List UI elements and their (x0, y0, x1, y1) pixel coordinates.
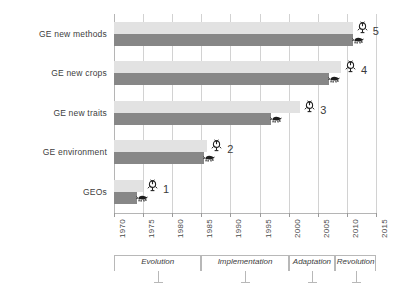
x-tick-label: 1970 (118, 219, 127, 238)
category-label: GE new methods (39, 29, 107, 39)
tick-mark (201, 213, 202, 217)
bar-group (114, 61, 376, 85)
animal-icon (270, 112, 283, 125)
bar-plants (114, 61, 341, 73)
category-label: GE new crops (51, 68, 107, 78)
plot-area: 12345 (114, 14, 376, 214)
category-axis (0, 0, 111, 292)
era-label: Implementation (202, 257, 287, 266)
bar-group (114, 101, 376, 125)
animal-icon (203, 151, 216, 164)
bar-animals (114, 34, 353, 46)
era-bracket: Revolution (335, 255, 376, 271)
animal-icon (136, 191, 149, 204)
tick-mark (289, 213, 290, 217)
era-label: Revolution (336, 257, 375, 266)
era-stem-foot (308, 282, 317, 283)
tick-mark (143, 213, 144, 217)
bar-plants (114, 140, 207, 152)
x-tick-label: 1980 (176, 219, 185, 238)
category-label: GE new traits (53, 108, 107, 118)
category-label: GEOs (83, 187, 107, 197)
era-stem (245, 271, 246, 282)
era-bracket: Adaptation (289, 255, 336, 271)
tick-mark (114, 213, 115, 217)
animal-icon (328, 72, 341, 85)
tick-mark (260, 213, 261, 217)
x-tick-label: 1975 (147, 219, 156, 238)
era-brackets: EvolutionImplementationAdaptationRevolut… (0, 255, 412, 292)
era-stem-foot (352, 282, 361, 283)
bar-animals (114, 73, 329, 85)
x-tick-label: 2010 (351, 219, 360, 238)
era-stem (158, 271, 159, 282)
animal-icon (352, 33, 365, 46)
era-stem-foot (241, 282, 250, 283)
bar-group-number: 5 (373, 25, 379, 37)
era-stem-foot (154, 282, 163, 283)
tick-mark (376, 213, 377, 217)
bar-animals (114, 192, 137, 204)
era-bracket: Implementation (201, 255, 288, 271)
tick-mark (347, 213, 348, 217)
tick-mark (172, 213, 173, 217)
bar-group-number: 3 (320, 104, 326, 116)
x-tick-label: 1995 (264, 219, 273, 238)
x-tick-label: 1985 (205, 219, 214, 238)
bar-group-number: 4 (361, 64, 367, 76)
bar-group (114, 180, 376, 204)
bar-group-number: 1 (163, 183, 169, 195)
tick-mark (230, 213, 231, 217)
era-bracket: Evolution (114, 255, 201, 271)
bar-group (114, 22, 376, 46)
category-label: GE environment (43, 147, 107, 157)
tick-mark (318, 213, 319, 217)
x-tick-label: 2015 (380, 219, 389, 238)
bar-animals (114, 152, 204, 164)
gridline (376, 14, 377, 214)
x-tick-label: 2000 (293, 219, 302, 238)
bar-animals (114, 113, 271, 125)
era-stem (312, 271, 313, 282)
x-tick-label: 1990 (234, 219, 243, 238)
bar-plants (114, 22, 353, 34)
x-tick-label: 2005 (322, 219, 331, 238)
plant-icon (344, 60, 357, 73)
plant-icon (303, 100, 316, 113)
era-label: Evolution (115, 257, 200, 266)
bar-chart: 12345 1970197519801985199019952000200520… (0, 0, 412, 292)
bar-group-number: 2 (227, 143, 233, 155)
x-axis-line (114, 213, 377, 214)
era-stem (356, 271, 357, 282)
bar-group (114, 140, 376, 164)
era-label: Adaptation (290, 257, 335, 266)
